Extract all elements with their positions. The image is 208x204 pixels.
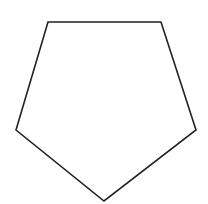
pentagon-diagram xyxy=(0,0,208,204)
pentagon-shape xyxy=(16,22,196,201)
diagram-canvas xyxy=(0,0,208,204)
